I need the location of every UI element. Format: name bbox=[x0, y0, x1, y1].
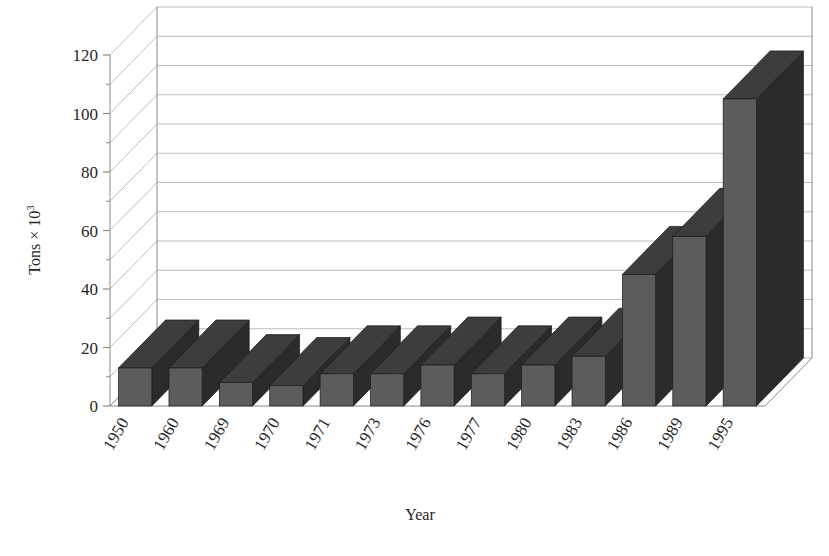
y-tick-label: 100 bbox=[73, 105, 99, 124]
bar-front-face bbox=[522, 365, 555, 406]
y-tick-label: 20 bbox=[81, 339, 98, 358]
bar-side-face bbox=[756, 51, 803, 406]
x-axis-title: Year bbox=[405, 506, 435, 523]
bar-front-face bbox=[471, 374, 504, 406]
chart-canvas: 020406080100120 195019601969197019711973… bbox=[0, 0, 829, 556]
bar-front-face bbox=[370, 374, 403, 406]
bar-front-face bbox=[673, 236, 706, 406]
bar-front-face bbox=[270, 386, 303, 406]
y-tick-label: 40 bbox=[81, 280, 98, 299]
y-tick-label: 0 bbox=[90, 397, 99, 416]
y-tick-label: 80 bbox=[81, 163, 98, 182]
bar-front-face bbox=[119, 368, 152, 406]
bar-front-face bbox=[219, 383, 252, 406]
y-tick-label: 60 bbox=[81, 222, 98, 241]
bar-front-face bbox=[169, 368, 202, 406]
y-axis-title-text: Tons × 10 bbox=[26, 211, 43, 275]
bar-1995 bbox=[723, 51, 803, 406]
y-axis-title-exponent: 3 bbox=[24, 205, 36, 211]
bar-front-face bbox=[723, 99, 756, 406]
bar-front-face bbox=[572, 356, 605, 406]
bar-chart-figure: 020406080100120 195019601969197019711973… bbox=[0, 0, 829, 556]
y-tick-label: 120 bbox=[73, 46, 99, 65]
bar-front-face bbox=[421, 365, 454, 406]
svg-text:Tons × 103: Tons × 103 bbox=[24, 205, 43, 275]
y-axis-title: Tons × 103 bbox=[24, 205, 43, 275]
bar-front-face bbox=[320, 374, 353, 406]
bar-front-face bbox=[622, 274, 655, 406]
